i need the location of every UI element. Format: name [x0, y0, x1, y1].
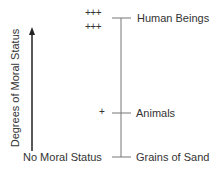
marks-human-beings-2: +++ [85, 22, 101, 32]
axis-label: Degrees of Moral Status [9, 29, 21, 148]
marks-animals: + [99, 107, 104, 117]
arrow-up-icon [29, 27, 35, 35]
marks-human-beings-1: +++ [85, 8, 101, 18]
level-label-human-beings: Human Beings [137, 12, 209, 24]
bottom-label-no-moral-status: No Moral Status [23, 151, 102, 163]
diagram-lines [0, 0, 219, 174]
level-label-grains-of-sand: Grains of Sand [136, 151, 209, 163]
level-label-animals: Animals [136, 107, 175, 119]
